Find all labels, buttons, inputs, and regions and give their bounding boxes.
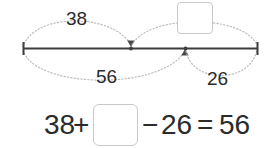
equation-plus-operator: + <box>73 111 89 139</box>
number-line-point-1 <box>129 47 133 51</box>
number-line-point-2 <box>184 47 188 51</box>
arc-label-38: 38 <box>66 9 87 28</box>
equation-result: 56 <box>219 111 250 139</box>
diagram-answer-box[interactable] <box>177 2 213 34</box>
equation-term-1: 38 <box>44 111 75 139</box>
equation-answer-box[interactable] <box>93 104 138 146</box>
equation-minus-operator: − <box>142 111 158 139</box>
math-worksheet-diagram: 38 56 26 38 + − 26 = 56 <box>0 0 275 148</box>
equation-equals-sign: = <box>197 111 213 139</box>
arc-label-26: 26 <box>207 69 228 88</box>
arc-label-56: 56 <box>96 67 117 86</box>
equation-term-2: 26 <box>161 111 192 139</box>
